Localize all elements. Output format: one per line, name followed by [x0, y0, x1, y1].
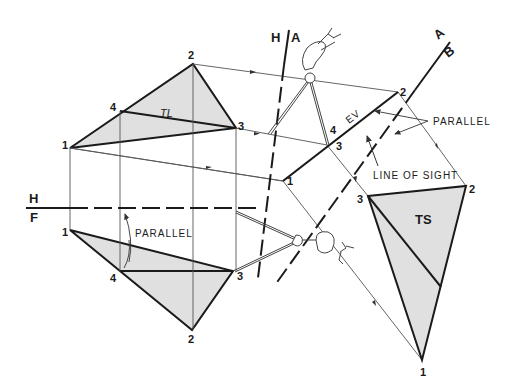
fold-line-ha [258, 30, 289, 278]
true-length-label: TL [160, 107, 173, 119]
aux1-point-3: 3 [336, 140, 342, 152]
parallel-label-aux: PARALLEL [433, 116, 491, 127]
top-point-1: 1 [62, 139, 68, 151]
front-point-4: 4 [110, 272, 117, 284]
aux2-point-1: 1 [420, 366, 426, 378]
top-point-2: 2 [188, 49, 194, 61]
front-point-1: 1 [62, 226, 68, 238]
fold-label-h2: H [271, 30, 280, 45]
parallel-label-front: PARALLEL [135, 228, 193, 239]
fold-label-f: F [30, 210, 38, 225]
aux2-point-2: 2 [469, 183, 475, 195]
top-view [70, 64, 236, 148]
fold-label-h: H [29, 191, 38, 206]
aux2-point-3: 3 [357, 193, 363, 205]
front-point-3: 3 [237, 270, 243, 282]
descriptive-geometry-diagram: 2 4 3 1 TL H F 1 4 3 2 PARALLEL H A 2 4 … [0, 0, 520, 390]
fold-label-b: B [441, 43, 458, 61]
line-of-sight-label: LINE OF SIGHT [373, 170, 458, 181]
aux1-point-4: 4 [330, 124, 337, 136]
true-size-label: TS [415, 212, 432, 227]
front-view [70, 230, 233, 330]
hand-with-dividers-icon [233, 211, 354, 272]
fold-label-a2: A [431, 24, 448, 42]
front-point-2: 2 [188, 333, 194, 345]
fold-label-a: A [291, 30, 301, 45]
line-of-sight-arrow [367, 136, 378, 166]
aux1-point-2: 2 [400, 86, 406, 98]
top-point-4: 4 [110, 101, 117, 113]
top-point-3: 3 [238, 120, 244, 132]
aux1-point-1: 1 [287, 175, 293, 187]
